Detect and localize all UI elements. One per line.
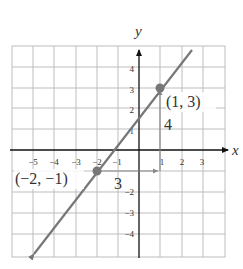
- svg-text:−3: −3: [71, 157, 81, 167]
- svg-text:3: 3: [130, 85, 135, 95]
- svg-text:−3: −3: [124, 208, 134, 218]
- run-label: 3: [114, 175, 122, 192]
- x-tick-labels: −5 −4 −3 −2 −1 1 2 3: [28, 157, 205, 167]
- svg-text:2: 2: [180, 157, 185, 167]
- svg-text:2: 2: [130, 105, 135, 115]
- svg-text:3: 3: [200, 157, 205, 167]
- point-neg2-neg1: [93, 167, 102, 176]
- y-axis-label: y: [133, 23, 142, 39]
- svg-text:−4: −4: [49, 157, 59, 167]
- point-label-neg2-neg1: (−2, −1): [15, 170, 68, 188]
- graph-line: [34, 50, 192, 254]
- point-label-1-3: (1, 3): [166, 93, 201, 111]
- rise-label: 4: [164, 116, 172, 133]
- grid: [12, 46, 225, 257]
- svg-text:−1: −1: [112, 157, 122, 167]
- svg-text:−2: −2: [92, 157, 102, 167]
- y-tick-labels: 4 3 2 1 −2 −3 −4: [124, 64, 134, 239]
- coordinate-plane: x y −5 −4 −3 −2 −1 1 2 3 4 3 2 1 −2 −3 −…: [0, 0, 243, 269]
- svg-text:−4: −4: [124, 229, 134, 239]
- svg-text:−2: −2: [124, 187, 134, 197]
- svg-text:4: 4: [130, 64, 135, 74]
- x-axis-label: x: [231, 142, 239, 158]
- point-1-3: [156, 84, 165, 93]
- svg-text:−5: −5: [28, 157, 38, 167]
